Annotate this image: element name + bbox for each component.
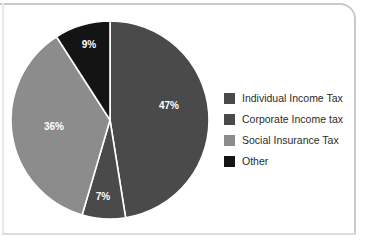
- pie-slice-label-corporate-income-tax: 7%: [96, 191, 111, 202]
- legend-item-social-insurance-tax[interactable]: Social Insurance Tax: [224, 130, 354, 151]
- legend-item-individual-income-tax[interactable]: Individual Income Tax: [224, 88, 354, 109]
- chart-legend: Individual Income Tax Corporate Income t…: [224, 88, 354, 172]
- legend-swatch-icon-individual-income-tax: [224, 93, 235, 104]
- pie-slice-label-social-insurance-tax: 36%: [44, 121, 64, 132]
- legend-swatch-icon-corporate-income-tax: [224, 114, 235, 125]
- legend-swatch-icon-other: [224, 156, 235, 167]
- legend-label-other: Other: [242, 156, 268, 167]
- legend-swatch-icon-social-insurance-tax: [224, 135, 235, 146]
- pie-chart: 47% 7% 36% 9% Individual Income Tax Corp…: [0, 0, 365, 248]
- legend-label-individual-income-tax: Individual Income Tax: [242, 93, 343, 104]
- pie-slice-label-other: 9%: [82, 39, 97, 50]
- pie-slice-label-individual-income-tax: 47%: [159, 100, 179, 111]
- legend-item-corporate-income-tax[interactable]: Corporate Income tax: [224, 109, 354, 130]
- legend-label-corporate-income-tax: Corporate Income tax: [242, 114, 343, 125]
- page-root: 47% 7% 36% 9% Individual Income Tax Corp…: [0, 0, 365, 248]
- legend-item-other[interactable]: Other: [224, 151, 354, 172]
- pie-slice-individual-income-tax[interactable]: [110, 21, 209, 218]
- legend-label-social-insurance-tax: Social Insurance Tax: [242, 135, 339, 146]
- pie-chart-svg: 47% 7% 36% 9%: [8, 17, 214, 225]
